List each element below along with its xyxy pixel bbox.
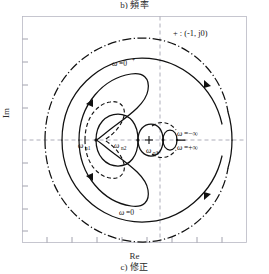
axis-label-imaginary: Im <box>1 108 11 118</box>
nyquist-figure: b) 頻率 <box>0 0 269 274</box>
omega-n3-subscript: n3 <box>153 150 159 156</box>
figure-caption-top: b) 頻率 <box>0 0 269 9</box>
omega-n2-subscript: n2 <box>121 145 127 151</box>
omega-zero-minus-sup: − <box>139 206 142 212</box>
legend-critical-point: + : (-1, j0) <box>173 29 208 38</box>
omega-zero-minus-eq: =0 <box>126 208 134 217</box>
label-omega-inf-negative: ω =−∞ <box>177 129 198 138</box>
plot-frame <box>23 17 247 243</box>
omega-inf-pos-eq: =+∞ <box>184 143 198 152</box>
omega-inf-neg-symbol: ω <box>177 129 183 138</box>
omega-zero-plus-eq: =0 <box>119 59 127 68</box>
omega-n2-symbol: ω <box>114 141 120 150</box>
legend-text: + : (-1, j0) <box>173 29 208 38</box>
omega-n3-symbol: ω <box>146 146 152 155</box>
label-omega-inf-positive: ω =+∞ <box>177 143 198 152</box>
omega-zero-plus-symbol: ω <box>112 59 118 68</box>
omega-zero-minus-symbol: ω <box>119 208 125 217</box>
nyquist-plot-svg: + : (-1, j0) ω =0 + ω =0 − ω =−∞ ω =+∞ ω… <box>0 0 269 274</box>
omega-zero-plus-sup: + <box>132 57 135 63</box>
omega-n1-subscript: n1 <box>85 145 91 151</box>
omega-inf-neg-eq: =−∞ <box>184 129 198 138</box>
figure-caption-bottom: c) 修正 <box>0 260 269 273</box>
omega-n1-symbol: ω <box>78 141 84 150</box>
omega-inf-pos-symbol: ω <box>177 143 183 152</box>
